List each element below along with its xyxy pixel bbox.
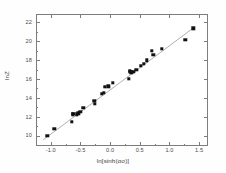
y-minor-tick [36,70,38,71]
y-tick-right-14 [204,98,208,99]
y-tick-16 [36,79,40,80]
x-ticklabel--0.5: -0.5 [69,147,91,153]
y-tick-14 [36,98,40,99]
x-ticklabel-0.5: 0.5 [129,147,151,153]
x-ticklabel-1.5: 1.5 [188,147,210,153]
plot-frame [36,14,208,146]
y-tick-18 [36,60,40,61]
x-minor-tick [95,144,96,146]
y-tick-right-12 [204,117,208,118]
x-tick-top--1.0 [51,14,52,18]
x-tick-0.0 [110,142,111,146]
y-ticklabel-22: 22 [16,19,32,25]
y-tick-right-22 [204,22,208,23]
y-minor-tick [36,88,38,89]
y-tick-right-10 [204,136,208,137]
x-tick-0.5 [140,142,141,146]
x-tick-top-0.0 [110,14,111,18]
y-tick-12 [36,117,40,118]
x-minor-tick [155,144,156,146]
x-tick-top-1.0 [169,14,170,18]
y-ticklabel-18: 18 [16,57,32,63]
x-tick-1.5 [199,142,200,146]
x-tick--0.5 [80,142,81,146]
y-axis-title: lnZ [3,56,10,96]
y-ticklabel-20: 20 [16,38,32,44]
x-minor-tick [184,144,185,146]
y-minor-tick [36,51,38,52]
y-tick-right-18 [204,60,208,61]
y-ticklabel-10: 10 [16,132,32,138]
x-minor-tick [66,144,67,146]
x-ticklabel-0.0: 0.0 [99,147,121,153]
x-tick-top-1.5 [199,14,200,18]
y-tick-right-20 [204,41,208,42]
x-tick-1.0 [169,142,170,146]
x-ticklabel-1.0: 1.0 [158,147,180,153]
x-tick--1.0 [51,142,52,146]
x-ticklabel--1.0: -1.0 [40,147,62,153]
x-tick-top--0.5 [80,14,81,18]
y-minor-tick [36,126,38,127]
y-ticklabel-12: 12 [16,114,32,120]
y-tick-10 [36,136,40,137]
y-minor-tick [36,32,38,33]
chart-figure: 10121416182022 -1.0-0.50.00.51.01.5 ln[s… [0,0,226,173]
x-tick-top-0.5 [140,14,141,18]
y-tick-22 [36,22,40,23]
y-tick-right-16 [204,79,208,80]
x-minor-tick [125,144,126,146]
y-tick-20 [36,41,40,42]
y-ticklabel-14: 14 [16,95,32,101]
x-axis-title: ln[sinh(ασ)] [0,157,226,164]
y-ticklabel-16: 16 [16,76,32,82]
y-minor-tick [36,107,38,108]
